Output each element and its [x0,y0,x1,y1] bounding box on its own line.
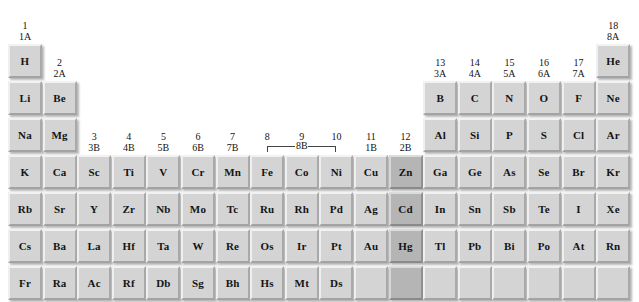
element-cell-Db[interactable]: Db [146,266,180,300]
element-cell-He[interactable]: He [596,44,630,78]
element-cell-Sn[interactable]: Sn [458,192,492,226]
element-cell-Cd[interactable]: Cd [389,192,423,226]
element-cell-Te[interactable]: Te [527,192,561,226]
element-cell-W[interactable]: W [181,229,215,263]
element-cell-Al[interactable]: Al [423,118,457,152]
element-cell-Mn[interactable]: Mn [216,155,250,189]
element-cell-Cu[interactable]: Cu [354,155,388,189]
element-cell-Xe[interactable]: Xe [596,192,630,226]
element-cell-Rh[interactable]: Rh [285,192,319,226]
element-cell-La[interactable]: La [77,229,111,263]
element-cell-P[interactable]: P [492,118,526,152]
element-cell-Ni[interactable]: Ni [319,155,353,189]
element-cell-Sc[interactable]: Sc [77,155,111,189]
element-cell-Na[interactable]: Na [8,118,42,152]
element-cell-V[interactable]: V [146,155,180,189]
element-cell-Pt[interactable]: Pt [319,229,353,263]
element-cell-Ge[interactable]: Ge [458,155,492,189]
element-cell-Ag[interactable]: Ag [354,192,388,226]
element-cell-Rf[interactable]: Rf [112,266,146,300]
element-cell-Kr[interactable]: Kr [596,155,630,189]
element-cell-Y[interactable]: Y [77,192,111,226]
element-cell-K[interactable]: K [8,155,42,189]
element-cell-N[interactable]: N [492,81,526,115]
element-cell-Rb[interactable]: Rb [8,192,42,226]
element-cell-Ba[interactable]: Ba [43,229,77,263]
element-cell-Ta[interactable]: Ta [146,229,180,263]
element-cell-Sg[interactable]: Sg [181,266,215,300]
element-cell-Ds[interactable]: Ds [319,266,353,300]
element-cell-Ar[interactable]: Ar [596,118,630,152]
element-cell-empty[interactable] [389,266,423,300]
element-cell-Ga[interactable]: Ga [423,155,457,189]
element-cell-As[interactable]: As [492,155,526,189]
element-cell-Rn[interactable]: Rn [596,229,630,263]
element-cell-Hf[interactable]: Hf [112,229,146,263]
element-cell-Au[interactable]: Au [354,229,388,263]
element-cell-empty[interactable] [423,266,457,300]
element-cell-Co[interactable]: Co [285,155,319,189]
element-symbol: La [88,241,101,252]
element-cell-Se[interactable]: Se [527,155,561,189]
element-cell-Hs[interactable]: Hs [250,266,284,300]
element-cell-O[interactable]: O [527,81,561,115]
element-cell-Os[interactable]: Os [250,229,284,263]
element-cell-Nb[interactable]: Nb [146,192,180,226]
element-cell-C[interactable]: C [458,81,492,115]
element-cell-Tl[interactable]: Tl [423,229,457,263]
element-cell-Zr[interactable]: Zr [112,192,146,226]
element-cell-In[interactable]: In [423,192,457,226]
element-cell-Ca[interactable]: Ca [43,155,77,189]
element-cell-Cl[interactable]: Cl [562,118,596,152]
element-cell-H[interactable]: H [8,44,42,78]
element-cell-Sr[interactable]: Sr [43,192,77,226]
element-cell-empty[interactable] [527,266,561,300]
element-cell-Ne[interactable]: Ne [596,81,630,115]
element-cell-Tc[interactable]: Tc [216,192,250,226]
element-symbol: Sn [468,204,481,215]
element-symbol: Ds [330,278,343,289]
element-cell-Re[interactable]: Re [216,229,250,263]
element-symbol: Ti [123,167,134,178]
element-cell-Li[interactable]: Li [8,81,42,115]
element-symbol: Br [572,167,585,178]
element-cell-Fe[interactable]: Fe [250,155,284,189]
element-cell-Sb[interactable]: Sb [492,192,526,226]
element-cell-empty[interactable] [492,266,526,300]
element-cell-Fr[interactable]: Fr [8,266,42,300]
element-symbol: Ag [364,204,378,215]
group-number-iupac: 7 [216,131,250,142]
element-cell-At[interactable]: At [562,229,596,263]
element-cell-Cr[interactable]: Cr [181,155,215,189]
element-cell-Mg[interactable]: Mg [43,118,77,152]
element-cell-Hg[interactable]: Hg [389,229,423,263]
element-cell-Po[interactable]: Po [527,229,561,263]
element-cell-Pd[interactable]: Pd [319,192,353,226]
element-cell-Mt[interactable]: Mt [285,266,319,300]
element-cell-Be[interactable]: Be [43,81,77,115]
element-cell-Zn[interactable]: Zn [389,155,423,189]
element-cell-F[interactable]: F [562,81,596,115]
element-cell-empty[interactable] [354,266,388,300]
element-cell-Bi[interactable]: Bi [492,229,526,263]
group-number-iupac: 4 [112,131,146,142]
element-symbol: Rb [18,204,32,215]
element-cell-Pb[interactable]: Pb [458,229,492,263]
element-cell-Br[interactable]: Br [562,155,596,189]
group-number-cas: 4A [458,68,492,79]
element-cell-Ac[interactable]: Ac [77,266,111,300]
element-cell-I[interactable]: I [562,192,596,226]
element-cell-empty[interactable] [596,266,630,300]
element-cell-Bh[interactable]: Bh [216,266,250,300]
element-cell-empty[interactable] [458,266,492,300]
element-cell-Mo[interactable]: Mo [181,192,215,226]
element-cell-Si[interactable]: Si [458,118,492,152]
element-cell-Ra[interactable]: Ra [43,266,77,300]
element-cell-B[interactable]: B [423,81,457,115]
element-cell-empty[interactable] [562,266,596,300]
element-cell-Ti[interactable]: Ti [112,155,146,189]
element-cell-Ru[interactable]: Ru [250,192,284,226]
element-cell-S[interactable]: S [527,118,561,152]
element-cell-Cs[interactable]: Cs [8,229,42,263]
element-cell-Ir[interactable]: Ir [285,229,319,263]
